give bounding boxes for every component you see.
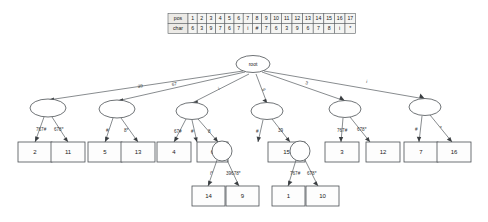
edge-label-n1-1: 767# — [36, 127, 47, 132]
leaf-label-15: 15 — [283, 149, 290, 155]
table-char-9: 7 — [265, 25, 268, 31]
table-char-1: 6 — [191, 25, 194, 31]
table-char-8: # — [256, 25, 259, 31]
n1-edge-group: 767# 678* — [35, 117, 68, 142]
edge-label-n1-2: 678* — [54, 127, 64, 132]
n6-edge-group: # * — [415, 115, 452, 142]
table-pos-5: 5 — [228, 15, 231, 21]
edge-label-n3-2: # — [191, 129, 194, 134]
leaf-label-11: 11 — [65, 149, 72, 155]
table-char-16: i — [339, 25, 340, 31]
internal-node-n5[interactable] — [329, 101, 361, 118]
table-char-15: 8 — [328, 25, 331, 31]
table-char-4: 7 — [219, 25, 222, 31]
internal-node-n1[interactable] — [30, 99, 66, 117]
table-pos-13: 13 — [305, 15, 311, 21]
leaf-box-10[interactable]: 10 — [306, 186, 339, 206]
edge-label-root-2: 67 — [171, 81, 177, 87]
n2-edge-group: # 8* — [105, 118, 138, 142]
level1-edge-group: 39 67 i 6 3 i — [48, 71, 425, 105]
tree-canvas: pos char 1 6 2 3 3 9 4 7 5 6 6 7 7 i 8 # — [0, 0, 488, 222]
edge-label-root-6: i — [366, 79, 368, 84]
edge-label-n4-2: 39 — [278, 128, 284, 133]
table-char-11: 3 — [285, 25, 288, 31]
root-node-label: root — [249, 61, 258, 67]
edge-label-n7-2: 39678* — [226, 171, 241, 176]
table-pos-2: 2 — [200, 15, 203, 21]
internal-node-n8[interactable] — [290, 141, 310, 161]
edge-label-root-4: 6 — [261, 88, 267, 93]
leaf-label-10: 10 — [319, 193, 326, 199]
table-char-17: * — [349, 25, 351, 31]
edge-label-n8-1: 767# — [290, 171, 301, 176]
internal-node-n6[interactable] — [409, 99, 441, 116]
edge-label-n4-1: # — [256, 129, 259, 134]
leaf-box-16[interactable]: 16 — [437, 142, 471, 162]
edge-label-n6-1: # — [415, 127, 418, 132]
edge-label-n3-3: 8 — [208, 129, 211, 134]
table-pos-1: 1 — [191, 15, 194, 21]
table-pos-6: 6 — [237, 15, 240, 21]
position-char-table: pos char 1 6 2 3 3 9 4 7 5 6 6 7 7 i 8 # — [168, 14, 356, 34]
edge-label-n6-2: * — [440, 126, 442, 131]
suffix-tree-figure: pos char 1 6 2 3 3 9 4 7 5 6 6 7 7 i 8 # — [0, 0, 488, 222]
n5-edge-group: 767# 678* — [337, 117, 370, 142]
n3-edge-group: 67# # 8 — [174, 119, 218, 142]
leaf-box-11[interactable]: 11 — [51, 142, 85, 162]
leaf-box-13[interactable]: 13 — [121, 142, 155, 162]
leaf-box-12[interactable]: 12 — [366, 142, 400, 162]
internal-node-n2[interactable] — [99, 100, 135, 118]
n8-edge-group: 767# 678* — [288, 160, 318, 186]
leaf-box-1[interactable]: 1 — [272, 186, 305, 206]
leaf-label-13: 13 — [135, 149, 142, 155]
table-row-header-pos: pos — [174, 15, 183, 21]
edge-label-n5-1: 767# — [337, 128, 348, 133]
edge-label-n8-2: 678* — [307, 171, 317, 176]
table-pos-15: 15 — [326, 15, 332, 21]
table-row-header-char: char — [173, 25, 183, 31]
n4-edge-group: # 39 — [256, 119, 290, 142]
root-node[interactable]: root — [236, 56, 270, 73]
table-char-10: 6 — [275, 25, 278, 31]
table-pos-7: 7 — [246, 15, 249, 21]
leaf-label-14: 14 — [205, 193, 212, 199]
n7-edge-group: i* 39678* — [208, 160, 241, 186]
table-char-14: 7 — [317, 25, 320, 31]
leaf-box-9[interactable]: 9 — [226, 186, 259, 206]
table-pos-10: 10 — [273, 15, 279, 21]
table-pos-8: 8 — [256, 15, 259, 21]
table-pos-17: 17 — [347, 15, 353, 21]
leaf-label-12: 12 — [380, 149, 387, 155]
table-char-3: 9 — [210, 25, 213, 31]
edge-label-root-5: 3 — [305, 80, 309, 86]
table-char-13: 6 — [306, 25, 309, 31]
leaf-label-16: 16 — [451, 149, 458, 155]
leaf-box-2[interactable]: 2 — [18, 142, 52, 162]
edge-label-n3-1: 67# — [174, 129, 182, 134]
leaf-box-3[interactable]: 3 — [325, 142, 359, 162]
table-pos-11: 11 — [284, 15, 289, 21]
leaf-box-4[interactable]: 4 — [157, 142, 191, 162]
internal-node-n7[interactable] — [212, 141, 232, 161]
edge-label-n5-2: 678* — [357, 127, 367, 132]
table-pos-3: 3 — [210, 15, 213, 21]
leaf-box-7[interactable]: 7 — [404, 142, 438, 162]
internal-node-n4[interactable] — [251, 103, 283, 120]
table-pos-4: 4 — [219, 15, 222, 21]
edge-label-n7-1: i* — [210, 171, 213, 176]
edge-label-n2-2: 8* — [124, 128, 129, 133]
table-pos-16: 16 — [337, 15, 343, 21]
table-char-5: 6 — [228, 25, 231, 31]
edge-label-n2-1: # — [106, 128, 109, 133]
table-char-12: 9 — [296, 25, 299, 31]
leaf-box-5[interactable]: 5 — [88, 142, 122, 162]
edge-label-root-1: 39 — [137, 83, 143, 89]
table-pos-12: 12 — [294, 15, 300, 21]
table-char-7: i — [247, 25, 248, 31]
table-char-6: 7 — [237, 25, 240, 31]
table-char-2: 3 — [200, 25, 203, 31]
leaf-box-14[interactable]: 14 — [192, 186, 225, 206]
table-pos-9: 9 — [265, 15, 268, 21]
internal-node-n3[interactable] — [176, 103, 208, 120]
table-pos-14: 14 — [316, 15, 322, 21]
